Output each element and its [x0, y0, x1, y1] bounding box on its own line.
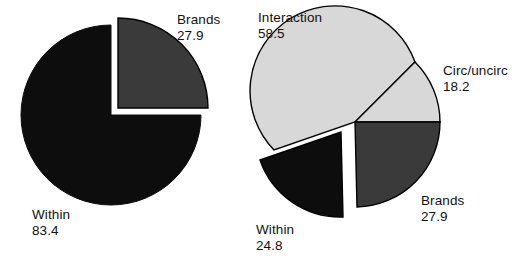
pie-chart-figure: Brands 27.9 Within 83.4 Interaction 58.5… [0, 0, 532, 270]
right-pie-label-circ-uncirc-name: Circ/uncirc [443, 63, 508, 79]
left-pie-label-brands-value: 27.9 [177, 28, 220, 44]
right-pie-label-brands-value: 27.9 [421, 209, 464, 225]
left-pie-label-brands-name: Brands [177, 12, 220, 28]
right-pie-label-within-value: 24.8 [256, 238, 294, 254]
left-pie-label-within-value: 83.4 [32, 223, 70, 239]
left-pie-group [21, 18, 208, 205]
right-pie-label-within-name: Within [256, 222, 294, 238]
right-pie-label-circ-uncirc-value: 18.2 [443, 79, 508, 95]
right-pie-label-interaction: Interaction 58.5 [258, 10, 322, 43]
left-pie-label-within: Within 83.4 [32, 207, 70, 240]
left-pie-label-brands: Brands 27.9 [177, 12, 220, 45]
right-pie-label-circ-uncirc: Circ/uncirc 18.2 [443, 63, 508, 96]
right-pie-label-brands: Brands 27.9 [421, 193, 464, 226]
right-pie-label-within: Within 24.8 [256, 222, 294, 255]
right-pie-label-interaction-value: 58.5 [258, 26, 322, 42]
left-pie-label-within-name: Within [32, 207, 70, 223]
right-pie-label-brands-name: Brands [421, 193, 464, 209]
right-pie-label-interaction-name: Interaction [258, 10, 322, 26]
